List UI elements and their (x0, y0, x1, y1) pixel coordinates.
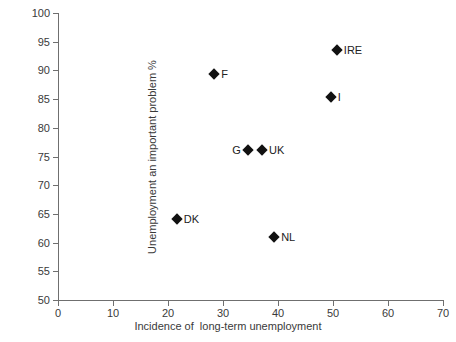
x-tick (58, 301, 59, 306)
x-axis-line (58, 300, 444, 301)
x-tick-label: 30 (217, 307, 229, 319)
y-tick-label: 95 (38, 36, 50, 48)
x-tick-label: 50 (327, 307, 339, 319)
diamond-marker-icon (325, 91, 336, 102)
plot-area: 50556065707580859095100 010203040506070 … (58, 13, 443, 300)
x-tick (333, 301, 334, 306)
x-tick (113, 301, 114, 306)
x-tick-label: 60 (382, 307, 394, 319)
data-point-label: NL (281, 231, 295, 243)
x-tick-label: 70 (437, 307, 449, 319)
x-tick-label: 20 (162, 307, 174, 319)
diamond-marker-icon (268, 231, 279, 242)
y-tick-label: 100 (32, 7, 50, 19)
x-tick-label: 10 (107, 307, 119, 319)
data-point-label: IRE (344, 44, 362, 56)
y-axis-title: Unemployment an important problem % (55, 13, 249, 300)
x-axis-title: Incidence of long-term unemployment (0, 320, 456, 332)
diamond-marker-icon (256, 145, 267, 156)
y-tick-label: 85 (38, 93, 50, 105)
y-axis-title-text: Unemployment an important problem % (146, 60, 158, 254)
data-point-label: UK (269, 144, 284, 156)
x-tick (223, 301, 224, 306)
y-tick-label: 80 (38, 122, 50, 134)
x-tick (443, 301, 444, 306)
x-tick-label: 0 (55, 307, 61, 319)
y-tick-label: 65 (38, 208, 50, 220)
y-tick-label: 60 (38, 237, 50, 249)
y-tick-label: 75 (38, 151, 50, 163)
scatter-chart-figure: 50556065707580859095100 010203040506070 … (0, 0, 456, 342)
x-tick (168, 301, 169, 306)
y-tick-label: 55 (38, 265, 50, 277)
x-tick (278, 301, 279, 306)
y-tick-label: 70 (38, 179, 50, 191)
x-tick (388, 301, 389, 306)
y-tick-label: 90 (38, 64, 50, 76)
x-tick-label: 40 (272, 307, 284, 319)
data-point-label: I (338, 91, 341, 103)
diamond-marker-icon (331, 45, 342, 56)
y-tick-label: 50 (38, 294, 50, 306)
